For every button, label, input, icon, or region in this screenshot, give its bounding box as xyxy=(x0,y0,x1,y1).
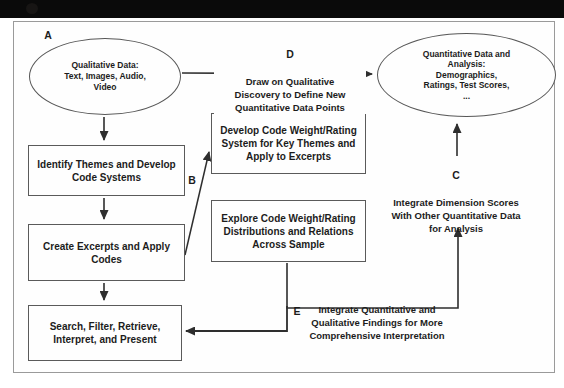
explore-weight-box: Explore Code Weight/Rating Distributions… xyxy=(211,200,366,262)
quantitative-data-text: Quantitative Data and Analysis: Demograp… xyxy=(423,49,510,102)
label-a: A xyxy=(41,30,55,41)
create-excerpts-box: Create Excerpts and Apply Codes xyxy=(28,224,185,281)
qualitative-data-ellipse: Qualitative Data: Text, Images, Audio, V… xyxy=(29,38,181,115)
explore-weight-text: Explore Code Weight/Rating Distributions… xyxy=(221,212,355,251)
create-excerpts-text: Create Excerpts and Apply Codes xyxy=(43,240,170,266)
path-c-text: Integrate Dimension Scores With Other Qu… xyxy=(391,197,520,234)
label-d: D xyxy=(216,49,364,60)
label-b: B xyxy=(186,175,198,186)
label-c: C xyxy=(381,170,531,181)
path-d-annotation: D Draw on Qualitative Discovery to Defin… xyxy=(214,36,366,114)
figure-page: A Qualitative Data: Text, Images, Audio,… xyxy=(0,0,564,388)
develop-weight-text: Develop Code Weight/Rating System for Ke… xyxy=(220,124,357,163)
develop-weight-box: Develop Code Weight/Rating System for Ke… xyxy=(211,113,366,174)
path-e-text: Integrate Quantitative and Qualitative F… xyxy=(303,303,451,342)
label-e: E xyxy=(291,306,303,317)
search-filter-box: Search, Filter, Retrieve, Interpret, and… xyxy=(28,305,182,361)
identify-themes-box: Identify Themes and Develop Code Systems xyxy=(28,145,185,196)
path-d-text: Draw on Qualitative Discovery to Define … xyxy=(235,76,346,113)
quantitative-data-ellipse: Quantitative Data and Analysis: Demograp… xyxy=(377,33,556,117)
search-filter-text: Search, Filter, Retrieve, Interpret, and… xyxy=(50,320,161,346)
qualitative-data-text: Qualitative Data: Text, Images, Audio, V… xyxy=(64,60,146,93)
path-c-annotation: C Integrate Dimension Scores With Other … xyxy=(381,157,531,235)
scan-header-bar xyxy=(0,0,564,18)
identify-themes-text: Identify Themes and Develop Code Systems xyxy=(37,158,175,184)
scan-artifact xyxy=(26,3,38,14)
